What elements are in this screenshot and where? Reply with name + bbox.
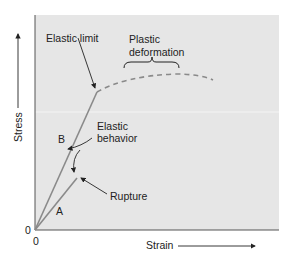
plastic-label-line1: Plastic [129,33,160,45]
elastic-behavior-label-line2: behavior [97,132,138,144]
curve-b-label: B [58,133,65,145]
stress-strain-diagram: Elastic limit Plastic deformation Elasti… [0,0,291,262]
plastic-label-line2: deformation [129,46,185,58]
curve-a-label: A [56,205,63,217]
x-origin-label: 0 [33,235,39,247]
x-axis-label: Strain [146,239,174,251]
y-axis-label: Stress [12,112,24,142]
elastic-limit-label: Elastic limit [46,32,99,44]
elastic-behavior-label-line1: Elastic [97,120,128,132]
rupture-label: Rupture [110,190,148,202]
y-origin-label: 0 [25,224,31,236]
